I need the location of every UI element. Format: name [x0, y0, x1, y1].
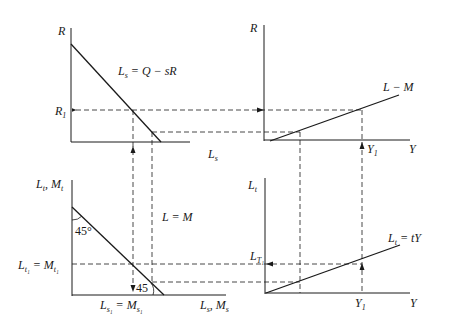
- arrow-right-r1: [257, 108, 264, 113]
- bl-angle-arc-top: [72, 216, 82, 220]
- arrow-left-lt1: [266, 262, 273, 267]
- arrow-up-ls: [131, 146, 136, 153]
- br-y-axis-label: Y: [410, 297, 417, 309]
- arrow-up-y1-top: [360, 142, 365, 149]
- top-left-panel: [71, 28, 190, 142]
- bl-angle-bottom-label: 45: [136, 282, 148, 294]
- tr-r-axis-label: R: [250, 22, 257, 34]
- tl-ls-axis-label: Ls: [208, 148, 218, 163]
- diagram-canvas: [0, 0, 449, 326]
- br-lt-axis-label: Lt: [248, 179, 257, 194]
- br-tax-curve: [266, 245, 400, 293]
- tl-supply-curve: [71, 44, 161, 142]
- dashed-connectors: [72, 110, 362, 293]
- tr-y-axis-label: Y: [409, 143, 416, 155]
- bl-y-axis-label: Lt, Mt: [36, 178, 63, 193]
- bl-ls1-ms1-label: Ls₁ = Ms₁: [100, 299, 143, 314]
- tl-r-axis-label: R: [58, 25, 65, 37]
- tl-r1-label: R1: [55, 105, 66, 120]
- bl-lt1-mt1-label: Lt₁ = Mt₁: [18, 259, 59, 274]
- bl-angle-top-label: 45°: [75, 225, 92, 237]
- br-y1-label: Y1: [355, 297, 366, 312]
- bl-l-equals-m-label: L = M: [162, 211, 193, 223]
- arrow-down-ls1: [131, 285, 136, 292]
- tr-lm-label: L − M: [383, 81, 414, 93]
- bottom-left-panel: [72, 180, 226, 296]
- br-tax-equation: Lt = tY: [388, 232, 421, 247]
- tr-lm-curve: [270, 95, 399, 141]
- br-lt1-label: LT₁: [250, 250, 264, 265]
- bl-45-degree-line: [72, 207, 164, 295]
- tr-y1-label: Y1: [367, 143, 378, 158]
- bl-x-axis-label: Ls, Ms: [200, 299, 229, 314]
- tl-supply-equation: Ls = Q − sR: [118, 65, 177, 80]
